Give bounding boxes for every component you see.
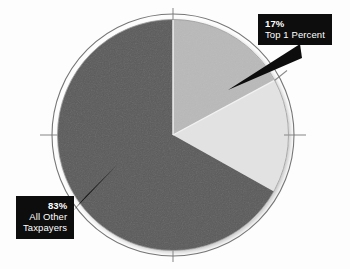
callout-top-percent: 17% bbox=[265, 18, 325, 29]
callout-bottom-label-line-1: All Other bbox=[23, 211, 67, 222]
callout-top-label-line-1: Top 1 Percent bbox=[265, 29, 325, 40]
chart-canvas: 17% Top 1 Percent 83% All Other Taxpayer… bbox=[0, 0, 350, 269]
callout-bottom-percent: 83% bbox=[23, 200, 67, 211]
callout-bottom-label-line-2: Taxpayers bbox=[23, 222, 67, 233]
callout-all-other-taxpayers[interactable]: 83% All Other Taxpayers bbox=[16, 196, 74, 239]
callout-top-1-percent[interactable]: 17% Top 1 Percent bbox=[258, 14, 332, 45]
